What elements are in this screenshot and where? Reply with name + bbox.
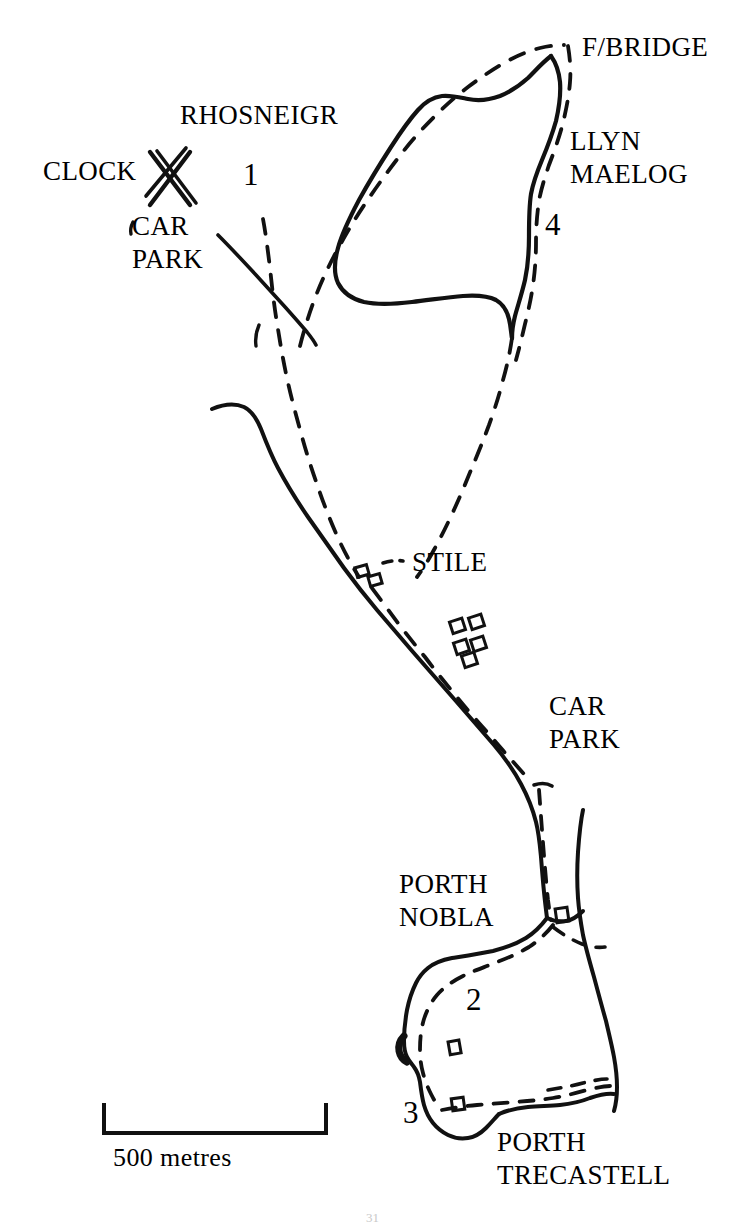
map-page: RHOSNEIGR CLOCK CAR PARK F/BRIDGE LLYN M… xyxy=(0,0,756,1226)
building-bay-west xyxy=(448,1040,461,1055)
footpath-stile-spur xyxy=(383,561,403,563)
label-rhosneigr: RHOSNEIGR xyxy=(180,100,338,130)
scale-bar xyxy=(104,1105,326,1133)
footpath-nobla-east-link xyxy=(553,927,605,947)
label-clock: CLOCK xyxy=(43,156,137,186)
building-bay-south xyxy=(451,1097,465,1111)
coastline-east-headland xyxy=(577,810,617,1111)
buildings-cluster-mid xyxy=(449,614,486,667)
llyn-maelog-lake-east-shore xyxy=(512,56,560,338)
label-llyn-maelog: LLYN MAELOG xyxy=(570,125,688,191)
scale-bar-label: 500 metres xyxy=(113,1143,232,1172)
route-number-4: 4 xyxy=(545,208,561,243)
label-car-park-south: CAR PARK xyxy=(549,690,620,756)
llyn-maelog-lake-outline xyxy=(335,56,551,338)
car-park-south-marker xyxy=(534,784,552,786)
footpath-lake-west-shore xyxy=(417,338,512,577)
route-number-1: 1 xyxy=(243,158,259,193)
route-number-2: 2 xyxy=(466,983,482,1018)
label-car-park-north: CAR PARK xyxy=(132,210,203,276)
route-number-3: 3 xyxy=(403,1096,419,1131)
label-porth-trecastell: PORTH TRECASTELL xyxy=(497,1126,671,1192)
label-f-bridge: F/BRIDGE xyxy=(582,32,708,62)
page-number: 31 xyxy=(366,1210,379,1226)
road-minor-branch xyxy=(256,325,259,346)
footpath-merged-southeast xyxy=(372,588,531,782)
coastline-west xyxy=(212,405,547,918)
label-stile: STILE xyxy=(412,547,488,577)
clock-x-icon xyxy=(150,152,190,205)
label-porth-nobla: PORTH NOBLA xyxy=(399,868,494,934)
